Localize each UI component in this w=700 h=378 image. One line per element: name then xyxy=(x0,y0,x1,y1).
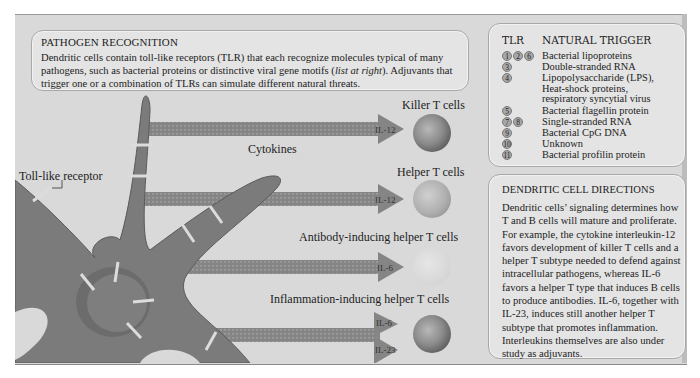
tlr-number-badge: 1 xyxy=(502,51,512,61)
tlr-number-badge: 7 xyxy=(502,117,512,127)
signal-il12-killer: IL-12 xyxy=(375,125,396,135)
target-antibody-t-label: Antibody-inducing helper T cells xyxy=(299,230,458,245)
signal-il12-helper: IL-12 xyxy=(375,195,396,205)
tlr-number-badge: 11 xyxy=(502,150,512,160)
arrow-antibody xyxy=(180,252,404,282)
pathogen-recognition-box: PATHOGEN RECOGNITION Dendritic cells con… xyxy=(31,30,469,91)
signal-il6-inflammation: IL-6 xyxy=(376,318,392,328)
tlr-number-badge: 2 xyxy=(513,51,523,61)
cytokines-label: Cytokines xyxy=(248,142,297,157)
tlr-trigger-text: Single-stranded RNA xyxy=(542,117,632,128)
tlr-trigger-text: Bacterial profilin protein xyxy=(542,150,645,161)
tlr-trigger-text: Bacterial CpG DNA xyxy=(542,128,627,139)
directions-title: DENDRITIC CELL DIRECTIONS xyxy=(502,184,655,195)
tlr-trigger-text: Bacterial flagellin protein xyxy=(542,106,649,117)
toll-like-receptor-label: Toll-like receptor xyxy=(19,169,102,184)
tlr-column-header: TLR xyxy=(502,34,524,46)
directions-text: Dendritic cells’ signaling determines ho… xyxy=(502,201,684,361)
trigger-column-header: NATURAL TRIGGER xyxy=(542,34,651,46)
dendritic-cell-directions-box: DENDRITIC CELL DIRECTIONS Dendritic cell… xyxy=(488,174,686,359)
tlr-trigger-text: Double-stranded RNA xyxy=(542,62,636,73)
target-killer-t-label: Killer T cells xyxy=(402,98,465,113)
tlr-number-badge: 8 xyxy=(513,117,523,127)
tlr-number-badge: 5 xyxy=(502,106,512,116)
tlr-number-badge: 4 xyxy=(502,73,512,83)
pathogen-recognition-text: Dendritic cells contain toll-like recept… xyxy=(41,51,466,90)
tlr-trigger-text: Lipopolysaccharide (LPS), Heat-shock pro… xyxy=(542,73,654,105)
tlr-trigger-text: Bacterial lipoproteins xyxy=(542,51,632,62)
signal-il23-inflammation: IL-23 xyxy=(375,345,396,355)
arrow-killer xyxy=(140,114,404,144)
tlr-number-badge: 10 xyxy=(502,139,512,149)
signal-il6-antibody: IL-6 xyxy=(377,263,393,273)
target-inflammation-t-label: Inflammation-inducing helper T cells xyxy=(270,292,449,307)
tlr-number-badge: 9 xyxy=(502,128,512,138)
pathogen-text-italic: list at right xyxy=(335,65,382,76)
tlr-trigger-table: TLR NATURAL TRIGGER 126 Bacterial lipopr… xyxy=(488,23,686,167)
target-helper-t-label: Helper T cells xyxy=(397,165,465,180)
tlr-number-badge: 3 xyxy=(502,62,512,72)
tlr-number-badge: 6 xyxy=(524,51,534,61)
tlr-trigger-text: Unknown xyxy=(542,139,583,150)
pathogen-recognition-title: PATHOGEN RECOGNITION xyxy=(41,36,178,48)
